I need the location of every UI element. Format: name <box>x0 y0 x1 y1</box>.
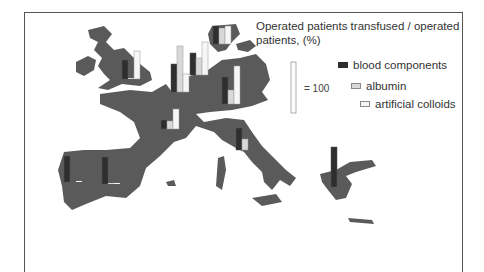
chart-title: Operated patients transfused / operated … <box>256 19 466 47</box>
blood-swatch-icon <box>338 62 348 68</box>
legend-label: blood components <box>353 59 447 71</box>
albumin-swatch-icon <box>351 83 361 89</box>
colloids-swatch-icon <box>360 101 370 107</box>
land-masses <box>58 24 376 224</box>
legend-artificial-colloids: artificial colloids <box>360 98 456 110</box>
legend-label: albumin <box>366 80 406 92</box>
legend-albumin: albumin <box>351 80 406 92</box>
legend-label: artificial colloids <box>375 98 456 110</box>
scale-label: = 100 <box>304 83 329 94</box>
scale-bar <box>291 62 296 113</box>
legend-blood-components: blood components <box>338 59 447 71</box>
